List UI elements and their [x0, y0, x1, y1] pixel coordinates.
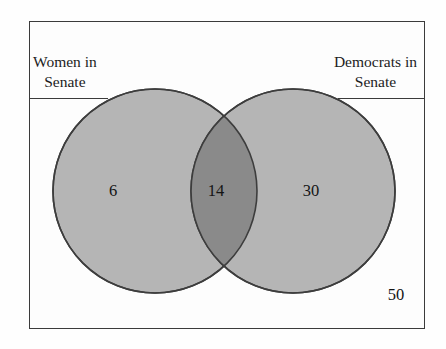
- left-label-rule: [30, 98, 108, 99]
- right-set-label-line1: Democrats in: [334, 53, 417, 70]
- intersection-count: 14: [208, 181, 225, 201]
- right-set-label: Democrats in Senate: [334, 52, 417, 92]
- outside-count: 50: [388, 285, 405, 305]
- left-set-label-line2: Senate: [33, 72, 97, 92]
- left-only-count: 6: [109, 181, 117, 201]
- left-set-label: Women in Senate: [33, 52, 97, 92]
- right-set-label-line2: Senate: [334, 72, 417, 92]
- venn-diagram-figure: Women in Senate Democrats in Senate 6 14…: [0, 0, 446, 349]
- left-set-label-line1: Women in: [33, 53, 97, 70]
- right-only-count: 30: [303, 181, 320, 201]
- right-label-rule: [338, 98, 424, 99]
